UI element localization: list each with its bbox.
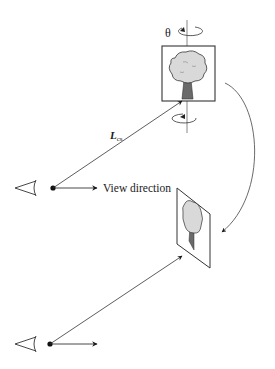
eye-icon-bottom — [15, 336, 36, 352]
theta-label: θ — [165, 26, 171, 40]
bottom-scene — [15, 188, 210, 352]
curved-arrow-icon — [222, 83, 255, 232]
view-direction-label: View direction — [103, 182, 171, 194]
rotation-arrow-icon-top — [179, 27, 203, 36]
rotation-arrow-icon-bottom — [172, 114, 196, 123]
eye-icon-top — [15, 180, 36, 196]
distance-vector-bottom — [50, 256, 182, 344]
tree-billboard-front — [162, 46, 215, 101]
distance-label: Lcs — [109, 129, 123, 143]
top-scene: θ Lcs — [15, 20, 215, 196]
distance-vector-top — [53, 101, 182, 188]
billboard-diagram: θ Lcs — [0, 0, 275, 369]
